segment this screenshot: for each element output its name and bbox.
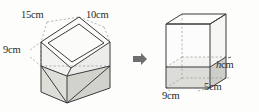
label-15cm: 15cm [21,9,44,20]
tilted-cuboid [30,17,110,103]
figure-canvas: 15cm 10cm 9cm hcm 9cm 5cm [0,0,259,112]
tilted-cuboid-leader-9b [30,57,41,66]
tilted-cuboid-leader-9 [30,42,41,50]
label-10cm: 10cm [86,9,109,20]
label-9cm-height: 9cm [3,44,20,55]
right-arrow-icon [133,53,147,65]
upright-cuboid [166,14,231,91]
h-dimension-tick [228,57,231,58]
label-h-cm: hcm [216,59,234,70]
label-9cm-base: 9cm [162,90,179,101]
label-h-unit: cm [221,59,233,70]
label-5cm-base: 5cm [204,81,221,92]
transform-arrow [133,53,147,65]
upright-cuboid-upper-front [166,24,210,67]
